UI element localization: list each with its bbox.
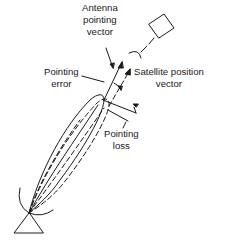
label-line: Pointing bbox=[104, 128, 139, 140]
label-line: loss bbox=[104, 140, 139, 152]
label-line: vector bbox=[134, 78, 204, 90]
label-pointing-error: Pointing error bbox=[44, 66, 79, 90]
label-pointing-loss: Pointing loss bbox=[104, 128, 139, 152]
pointing-error-leader bbox=[82, 76, 104, 82]
label-line: vector bbox=[82, 26, 118, 38]
label-satellite-position-vector: Satellite position vector bbox=[134, 66, 204, 90]
label-line: pointing bbox=[82, 14, 118, 26]
label-line: Antenna bbox=[82, 2, 118, 14]
pointing-loss-dimension bbox=[103, 100, 138, 128]
label-line: error bbox=[44, 78, 79, 90]
antenna-beam-solid-lobe bbox=[29, 95, 104, 213]
label-line: Pointing bbox=[44, 66, 79, 78]
label-antenna-pointing-vector: Antenna pointing vector bbox=[82, 2, 118, 38]
ground-antenna-icon bbox=[14, 188, 53, 233]
pointing-error-diagram: Antenna pointing vector Pointing error S… bbox=[0, 0, 230, 249]
satellite-icon bbox=[129, 14, 174, 58]
antenna-beam-dashed-lobe bbox=[29, 99, 109, 213]
pointing-error-arc bbox=[114, 83, 122, 90]
label-line: Satellite position bbox=[134, 66, 204, 78]
